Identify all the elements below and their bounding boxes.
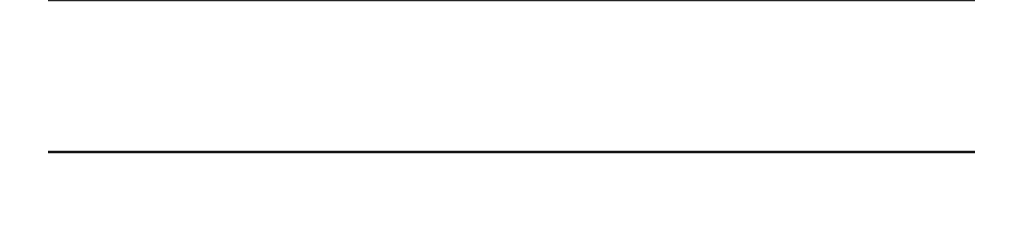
chart-canvas xyxy=(0,0,1022,250)
